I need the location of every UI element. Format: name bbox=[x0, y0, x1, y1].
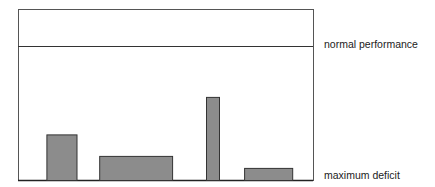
chart: normal performance maximum deficit bbox=[0, 0, 435, 187]
bar-4 bbox=[245, 168, 293, 180]
bar-3 bbox=[207, 97, 220, 180]
bar-2 bbox=[100, 156, 173, 180]
normal-performance-label: normal performance bbox=[324, 38, 418, 50]
bar-1 bbox=[47, 135, 77, 181]
bars-group bbox=[47, 97, 293, 180]
maximum-deficit-label: maximum deficit bbox=[324, 169, 400, 181]
